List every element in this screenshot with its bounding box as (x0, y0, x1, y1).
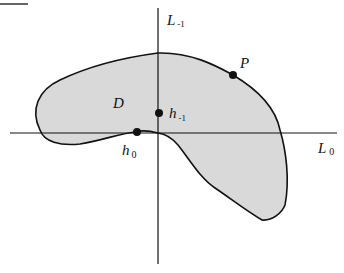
label-h0: h0 (122, 142, 137, 160)
label-l-1: L-1 (166, 12, 185, 29)
label-d: D (112, 95, 124, 111)
label-p: P (239, 55, 249, 71)
point-h0 (133, 128, 141, 136)
point-p (229, 71, 237, 79)
label-l0: L0 (317, 140, 334, 157)
region-d (36, 53, 288, 220)
point-h-1 (155, 109, 163, 117)
diagram-canvas: L-1 L0 P D h-1 h0 (0, 0, 344, 273)
